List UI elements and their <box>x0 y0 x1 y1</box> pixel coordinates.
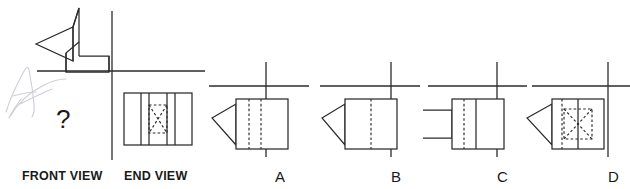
option-d-figure[interactable] <box>527 62 630 157</box>
drawing-svg <box>0 0 630 189</box>
end-view-figure <box>124 93 192 145</box>
pictorial-object <box>36 8 109 72</box>
front-view-label: FRONT VIEW <box>22 169 102 183</box>
option-c-label[interactable]: C <box>497 168 508 185</box>
option-a-wedge-profile <box>212 104 236 145</box>
option-d-wedge-profile <box>527 104 552 145</box>
option-a-label[interactable]: A <box>275 168 285 185</box>
option-b-wedge-profile <box>322 104 345 145</box>
option-c-figure[interactable] <box>423 62 527 157</box>
option-b-label[interactable]: B <box>391 168 401 185</box>
option-b-figure[interactable] <box>320 62 420 157</box>
projection-question-canvas: ? FRONT VIEW END VIEW A B C D <box>0 0 630 189</box>
option-d-label[interactable]: D <box>608 168 619 185</box>
option-c-block-profile <box>423 110 452 138</box>
front-view-question-mark: ? <box>56 104 71 135</box>
end-view-label: END VIEW <box>124 169 187 183</box>
option-a-figure[interactable] <box>209 62 309 157</box>
option-a-rectangle <box>236 99 288 149</box>
option-c-rectangle <box>452 99 504 149</box>
